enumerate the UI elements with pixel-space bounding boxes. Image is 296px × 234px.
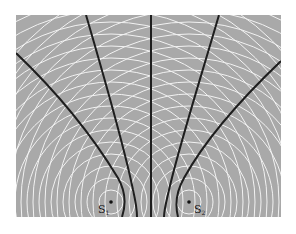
interference-diagram: S1S2 [0, 0, 296, 234]
source-point-s1 [109, 200, 113, 204]
source-point-s2 [187, 200, 191, 204]
